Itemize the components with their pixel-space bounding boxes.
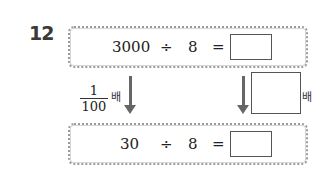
top-divisor: 8 (188, 38, 198, 56)
bottom-dividend: 30 (120, 135, 139, 153)
left-multiplier-suffix: 배 (111, 88, 121, 104)
fraction-one-hundredth: 1 100 (80, 84, 108, 113)
top-divide-sign: ÷ (160, 38, 173, 56)
bottom-equation-box: 30 ÷ 8 = (68, 123, 308, 165)
top-equation-box: 3000 ÷ 8 = (68, 26, 308, 68)
top-equals: = (212, 38, 225, 56)
right-multiplier-suffix: 배 (302, 88, 312, 104)
down-arrow-left-icon (129, 76, 132, 106)
fraction-denominator: 100 (80, 100, 108, 113)
problem-number: 12 (29, 22, 53, 44)
bottom-equals: = (212, 135, 225, 153)
top-dividend: 3000 (112, 38, 150, 56)
bottom-divisor: 8 (188, 135, 198, 153)
top-answer-blank[interactable] (230, 34, 272, 60)
down-arrow-right-icon (242, 76, 245, 106)
right-multiplier-blank[interactable] (251, 72, 301, 114)
bottom-answer-blank[interactable] (230, 131, 272, 157)
bottom-divide-sign: ÷ (160, 135, 173, 153)
fraction-numerator: 1 (80, 84, 108, 97)
